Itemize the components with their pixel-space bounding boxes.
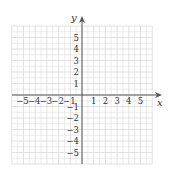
x-tick-label: −2 — [51, 96, 64, 106]
axes — [12, 16, 162, 164]
x-tick-label: 4 — [126, 96, 131, 106]
y-tick-label: −2 — [66, 113, 79, 123]
y-tick-label: −4 — [66, 136, 79, 146]
y-tick-label: 1 — [74, 79, 79, 89]
y-axis-label: y — [70, 12, 77, 23]
y-tick-label: 4 — [74, 44, 79, 54]
y-tick-label: 2 — [74, 67, 79, 77]
x-axis-label: x — [157, 97, 163, 108]
y-tick-label: 3 — [74, 56, 79, 66]
coordinate-plane: x y −5−4−3−2−112345 54321−1−2−3−4−5 — [0, 0, 174, 170]
x-tick-label: 1 — [91, 96, 96, 106]
x-tick-label: 3 — [114, 96, 119, 106]
y-tick-label: −1 — [66, 102, 79, 112]
y-tick-label: −5 — [66, 148, 79, 158]
x-tick-label: −4 — [28, 96, 41, 106]
x-tick-label: 5 — [138, 96, 143, 106]
y-tick-label: 5 — [74, 33, 79, 43]
x-tick-label: −5 — [16, 96, 29, 106]
x-tick-label: −3 — [40, 96, 53, 106]
y-tick-label: −3 — [66, 125, 79, 135]
x-tick-label: 2 — [103, 96, 108, 106]
